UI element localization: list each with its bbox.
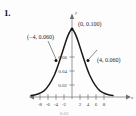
leader-line-right — [89, 50, 98, 60]
y-axis-label: y — [74, 10, 78, 15]
annotation-left: (−4, 0.060) — [27, 34, 54, 41]
clipped-bottom-label: 0.02 — [60, 111, 69, 116]
x-tick-label-6: 6 — [95, 102, 98, 107]
x-tick-label-minus8: -8 — [38, 102, 43, 107]
y-axis-arrowhead — [70, 14, 74, 20]
annotation-peak: (0, 0.100) — [78, 21, 102, 28]
x-tick-label-2: 2 — [79, 102, 82, 107]
annotation-right: (4, 0.060) — [97, 57, 121, 64]
marker-left — [55, 59, 58, 62]
y-tick-label-004: 0.04 — [58, 69, 67, 74]
figure-container: 1. -8 -6 -4 -2 2 4 — [0, 0, 136, 116]
y-tick-label-002: 0.02 — [58, 83, 67, 88]
marker-right — [87, 59, 90, 62]
normal-distribution-plot: -8 -6 -4 -2 2 4 6 8 0.02 0.04 0.06 y x (… — [0, 0, 136, 116]
leader-line-left — [48, 41, 56, 59]
x-tick-label-4: 4 — [87, 102, 90, 107]
x-tick-label-minus2: -2 — [62, 102, 67, 107]
x-tick-label-minus4: -4 — [54, 102, 59, 107]
x-axis-label: x — [130, 95, 134, 100]
x-tick-label-minus6: -6 — [46, 102, 51, 107]
marker-peak — [71, 28, 74, 31]
x-tick-label-8: 8 — [103, 102, 106, 107]
